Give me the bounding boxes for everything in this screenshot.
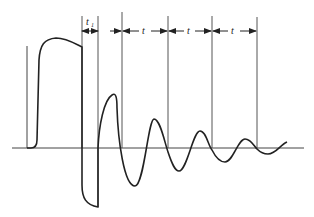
waveform-diagram: t 1 t t t bbox=[0, 0, 314, 217]
t1-subscript: 1 bbox=[91, 22, 94, 28]
waveform-curve bbox=[27, 38, 287, 207]
period-dimension-3: t bbox=[213, 25, 256, 36]
period-label-3: t bbox=[231, 25, 234, 36]
t1-dimension: t 1 bbox=[82, 16, 98, 31]
t1-label: t bbox=[86, 16, 89, 27]
period-dimension-2: t bbox=[169, 25, 211, 36]
period-dimension-1: t bbox=[123, 25, 167, 36]
period-label-2: t bbox=[187, 25, 190, 36]
period-label-1: t bbox=[142, 25, 145, 36]
